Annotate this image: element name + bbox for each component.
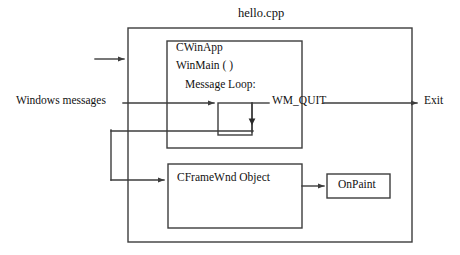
message-loop-label: Message Loop:	[185, 79, 256, 91]
page-title: hello.cpp	[238, 7, 284, 20]
cframewnd-object-label: CFrameWnd Object	[177, 172, 270, 184]
wm-quit-label: WM_QUIT	[272, 95, 326, 107]
onpaint-label: OnPaint	[338, 179, 376, 191]
winmain-label: WinMain ( )	[176, 60, 233, 72]
message-loop-box	[218, 103, 252, 135]
outer-box-hello-cpp	[128, 28, 412, 242]
diagram-vector-layer	[0, 0, 460, 255]
cwinapp-label: CWinApp	[176, 42, 223, 54]
exit-label: Exit	[424, 95, 443, 107]
loop-down-arrowhead-icon	[249, 118, 256, 125]
diagram-canvas: hello.cpp CWinApp WinMain ( ) Message Lo…	[0, 0, 460, 255]
windows-messages-label: Windows messages	[16, 95, 106, 107]
